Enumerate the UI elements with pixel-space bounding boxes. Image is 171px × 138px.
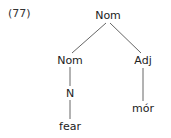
node-adj: Adj (134, 55, 151, 66)
tree-edges (0, 0, 171, 138)
leaf-mor: mór (132, 103, 154, 114)
leaf-fear: fear (59, 121, 81, 132)
node-root-nom: Nom (95, 10, 121, 21)
edge-root-nom (72, 23, 106, 53)
edge-root-adj (110, 23, 141, 53)
node-n: N (66, 88, 74, 99)
node-nom: Nom (57, 55, 83, 66)
